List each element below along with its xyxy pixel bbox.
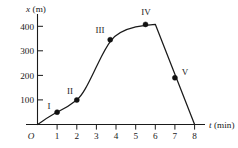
x-tick-marks: [57, 125, 195, 130]
annotation-IV: IV: [141, 7, 151, 17]
x-axis-unit: (min): [214, 120, 234, 130]
x-tick-label-6: 6: [153, 131, 158, 141]
x-tick-label-5: 5: [133, 131, 138, 141]
y-axis-unit: (m): [33, 4, 46, 14]
annotation-III: III: [96, 25, 105, 35]
data-point-I: [55, 110, 60, 115]
data-point-IV: [143, 22, 148, 27]
x-tick-label-3: 3: [94, 131, 99, 141]
data-point-III: [108, 37, 113, 42]
y-tick-label-100: 100: [20, 95, 34, 105]
y-tick-label-300: 300: [20, 46, 34, 56]
x-tick-label-4: 4: [114, 131, 119, 141]
origin-label: O: [28, 131, 35, 141]
x-tick-label-7: 7: [173, 131, 178, 141]
y-axis-symbol: x: [25, 4, 31, 14]
y-tick-label-400: 400: [20, 22, 34, 32]
data-point-V: [172, 75, 177, 80]
y-tick-label-200: 200: [20, 71, 34, 81]
chart-svg: 100 200 300 400 1 2 3 4 5 6 7 8 O x(m) t…: [0, 0, 238, 148]
data-point-II: [74, 98, 79, 103]
annotation-II: II: [67, 86, 73, 96]
annotation-I: I: [48, 101, 51, 111]
x-axis-symbol: t: [209, 120, 212, 130]
position-time-chart: 100 200 300 400 1 2 3 4 5 6 7 8 O x(m) t…: [0, 0, 238, 148]
x-tick-label-2: 2: [75, 131, 80, 141]
x-tick-label-1: 1: [55, 131, 60, 141]
x-axis-label: t(min): [209, 120, 234, 130]
annotation-V: V: [182, 67, 189, 77]
y-tick-marks: [38, 26, 44, 100]
x-tick-label-8: 8: [192, 131, 197, 141]
y-axis-label: x(m): [25, 4, 46, 14]
position-curve: [38, 24, 195, 124]
